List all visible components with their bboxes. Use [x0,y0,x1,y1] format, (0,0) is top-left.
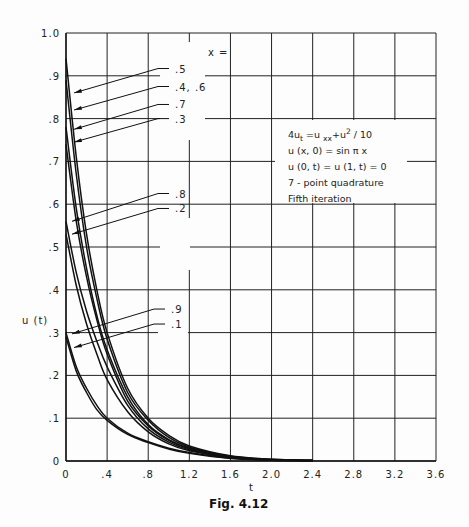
y-tick-label: 0 [53,456,60,467]
pointer-labels: .5.4, .6.7.3.8.2.9.1 [72,64,206,348]
annotation-line: 7 - point quadrature [288,177,384,188]
pointer-label: .2 [175,203,187,214]
y-tick-label: .8 [48,114,60,125]
pointer-label: .1 [171,319,183,330]
x-tick-label: 0 [62,469,69,480]
arrowhead-icon [74,106,82,110]
y-tick-label: .4 [48,285,60,296]
x-axis-label: t [249,482,254,493]
x-tick-label: .4 [101,469,113,480]
x-tick-label: 2.4 [303,469,322,480]
y-tick-label: .3 [48,328,60,339]
y-axis-label: u (t) [22,315,48,326]
leader-line [74,104,169,129]
line-chart: .5.4, .6.7.3.8.2.9.1 0.4.81.21.62.02.42.… [0,0,469,527]
pointer-label: .9 [171,304,183,315]
leader-line [74,69,169,93]
x-tick-label: 1.6 [221,469,240,480]
leader-line [74,87,169,111]
y-tick-label: .2 [48,370,60,381]
y-tick-label: .5 [48,242,60,253]
y-tick-label: .1 [48,413,60,424]
annotation-line: u (x, 0) = sin π x [288,145,368,156]
legend-header: x = [208,47,228,58]
x-tick-label: 3.6 [427,469,446,480]
arrowhead-icon [74,89,82,93]
arrowhead-icon [72,330,80,334]
leader-line [72,208,169,234]
y-tick-label: 1.0 [41,28,60,39]
annotation-line: Fifth iteration [288,193,352,204]
annotation-line: u (0, t) = u (1, t) = 0 [288,161,387,172]
figure-caption: Fig. 4.12 [209,497,268,511]
y-tick-label: .6 [48,199,60,210]
pointer-label: .5 [175,64,187,75]
leader-line [74,119,169,143]
leader-line [72,194,169,222]
x-tick-label: .8 [142,469,154,480]
pointer-label: .8 [175,189,187,200]
x-tick-label: 1.2 [180,469,199,480]
arrowhead-icon [72,230,80,234]
arrowhead-icon [74,138,82,142]
arrowhead-icon [74,125,82,129]
y-tick-label: .7 [48,156,60,167]
arrowhead-icon [74,343,82,347]
pointer-label: .3 [175,114,187,125]
x-tick-label: 2.8 [344,469,363,480]
x-tick-label: 2.0 [262,469,281,480]
x-tick-label: 3.2 [385,469,404,480]
y-tick-label: .9 [48,71,60,82]
pointer-label: .4, .6 [175,82,206,93]
pointer-label: .7 [175,99,187,110]
